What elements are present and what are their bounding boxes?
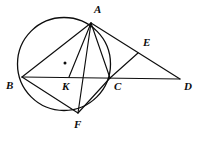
vertex-label-B: B [6, 80, 13, 91]
vertex-label-K: K [62, 81, 69, 92]
circle-center-dot [64, 62, 67, 65]
segment-A-B [22, 23, 91, 77]
vertex-label-A: A [94, 4, 101, 15]
segment-A-F [78, 23, 91, 113]
vertex-label-D: D [184, 81, 192, 92]
segment-B-D [22, 77, 180, 79]
segment-B-F [22, 77, 78, 113]
segment-C-E [110, 53, 138, 78]
figure-canvas [0, 0, 202, 142]
segment-A-D [91, 23, 180, 79]
vertex-label-F: F [74, 119, 81, 130]
vertex-label-E: E [143, 37, 150, 48]
vertex-label-C: C [114, 81, 121, 92]
geometry-figure: A B C D E F K [0, 0, 202, 142]
segment-A-C [91, 23, 110, 78]
